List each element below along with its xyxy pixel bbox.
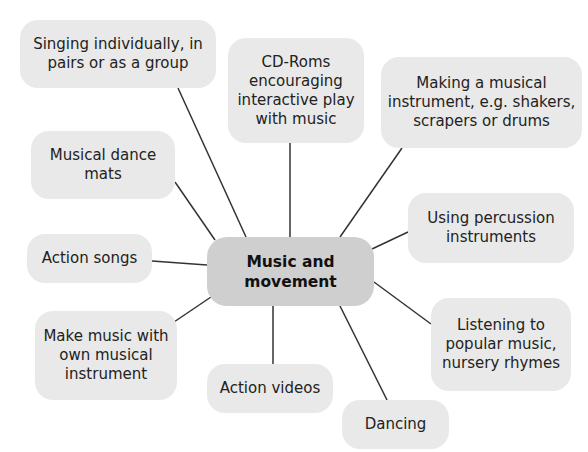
node-label-line: pairs or as a group bbox=[33, 54, 203, 73]
connector-line-percussion bbox=[372, 232, 408, 249]
connector-line-listening bbox=[374, 282, 431, 324]
node-label-line: encouraging bbox=[237, 72, 354, 91]
connector-line-make-music bbox=[174, 297, 211, 322]
node-dance-mats: Musical dance mats bbox=[31, 131, 175, 199]
node-label-line: own musical bbox=[43, 346, 168, 365]
node-label-line: Making a musical bbox=[388, 74, 576, 93]
node-label-line: instrument bbox=[43, 365, 168, 384]
node-making-instrument: Making a musical instrument, e.g. shaker… bbox=[381, 57, 582, 148]
node-listening: Listening to popular music, nursery rhym… bbox=[431, 298, 571, 391]
node-label-line: Dancing bbox=[365, 415, 427, 434]
node-label-line: Action videos bbox=[220, 379, 321, 398]
node-action-songs: Action songs bbox=[27, 234, 152, 283]
central-node-label-line-2: movement bbox=[244, 272, 337, 292]
node-make-music: Make music with own musical instrument bbox=[35, 311, 177, 400]
node-label-line: CD-Roms bbox=[237, 53, 354, 72]
node-label-line: Singing individually, in bbox=[33, 35, 203, 54]
connector-line-dancing bbox=[340, 306, 387, 400]
connector-line-making-instrument bbox=[340, 148, 402, 237]
node-label-line: popular music, bbox=[442, 335, 560, 354]
node-label-line: Make music with bbox=[43, 327, 168, 346]
central-node-label-line-1: Music and bbox=[244, 252, 337, 272]
node-label-line: scrapers or drums bbox=[388, 112, 576, 131]
node-label-line: instrument, e.g. shakers, bbox=[388, 93, 576, 112]
node-singing: Singing individually, in pairs or as a g… bbox=[20, 20, 216, 88]
node-label-line: nursery rhymes bbox=[442, 354, 560, 373]
node-percussion: Using percussion instruments bbox=[408, 193, 574, 263]
central-node-music-and-movement: Music and movement bbox=[207, 237, 374, 306]
node-label-line: Musical dance bbox=[50, 146, 157, 165]
node-dancing: Dancing bbox=[342, 400, 449, 449]
connector-line-dance-mats bbox=[175, 182, 215, 240]
node-label-line: mats bbox=[50, 165, 157, 184]
node-label-line: Using percussion bbox=[427, 209, 555, 228]
node-label-line: Listening to bbox=[442, 316, 560, 335]
node-label-line: Action songs bbox=[42, 249, 138, 268]
node-label-line: with music bbox=[237, 110, 354, 129]
node-label-line: interactive play bbox=[237, 91, 354, 110]
node-action-videos: Action videos bbox=[207, 364, 333, 413]
node-cd-roms: CD-Roms encouraging interactive play wit… bbox=[228, 38, 364, 143]
connector-line-action-songs bbox=[152, 261, 207, 265]
node-label-line: instruments bbox=[427, 228, 555, 247]
